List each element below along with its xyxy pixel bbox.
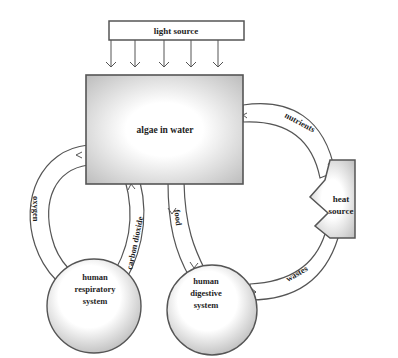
heat-label-line2: source bbox=[329, 206, 354, 216]
digestive-line2: digestive bbox=[190, 288, 222, 298]
digestive-line3: system bbox=[194, 300, 219, 310]
heat-source: heat source bbox=[310, 160, 355, 238]
digestive-system: human digestive system bbox=[167, 265, 257, 355]
life-support-diagram: light source algae in water bbox=[0, 0, 398, 358]
light-arrows bbox=[106, 40, 223, 67]
heat-label-line1: heat bbox=[333, 194, 350, 204]
algae-label: algae in water bbox=[137, 125, 195, 135]
digestive-line1: human bbox=[193, 276, 219, 286]
light-source-label: light source bbox=[154, 26, 199, 36]
respiratory-line2: respiratory bbox=[75, 284, 117, 294]
respiratory-line3: system bbox=[83, 296, 108, 306]
respiratory-system: human respiratory system bbox=[47, 259, 141, 353]
respiratory-line1: human bbox=[82, 272, 108, 282]
light-source-box: light source bbox=[109, 21, 244, 40]
algae-box: algae in water bbox=[86, 75, 243, 184]
oxygen-label: oxygen bbox=[31, 196, 41, 222]
